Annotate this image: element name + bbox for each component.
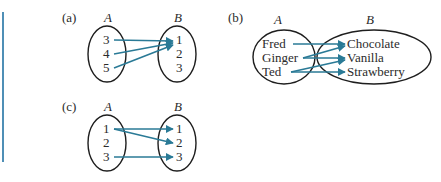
panel-c-codomain-item: 3 — [176, 149, 183, 164]
panel-c-codomain-name: B — [174, 99, 182, 114]
panel-a-domain-item: 3 — [103, 32, 110, 47]
panel-b: (b) A B Fred Ginger Ted Chocolate Vanill… — [228, 10, 431, 84]
panel-c-domain-item: 1 — [103, 121, 110, 136]
panel-a-codomain-item: 2 — [176, 46, 183, 61]
panel-a-domain-item: 4 — [103, 46, 110, 61]
panel-b-arrow-ginger-to-chocolate — [303, 46, 345, 58]
panel-c-domain-name: A — [103, 99, 112, 114]
panel-b-codomain-item: Vanilla — [347, 50, 384, 65]
panel-c-domain-item: 3 — [103, 149, 110, 164]
mapping-diagrams: (a) A B 3 4 5 1 2 3 (b) A B Fred Ginger … — [0, 0, 441, 182]
panel-a-label: (a) — [62, 10, 76, 25]
panel-a-arrow-3-to-1 — [114, 40, 173, 41]
panel-b-domain-item: Ted — [262, 64, 282, 79]
panel-a-codomain-item: 1 — [176, 32, 183, 47]
panel-c-domain-item: 2 — [103, 135, 110, 150]
panel-b-codomain-item: Strawberry — [347, 64, 405, 79]
panel-c-codomain-item: 1 — [176, 121, 183, 136]
panel-a-codomain-item: 3 — [176, 60, 183, 75]
panel-c-arrow-1-to-2 — [114, 129, 173, 143]
panel-b-codomain-item: Chocolate — [347, 36, 400, 51]
panel-a-codomain-name: B — [174, 10, 182, 25]
panel-b-domain-name: A — [273, 12, 282, 27]
panel-a: (a) A B 3 4 5 1 2 3 — [62, 10, 196, 82]
panel-b-domain-item: Ginger — [262, 50, 299, 65]
panel-c-codomain-item: 2 — [176, 135, 183, 150]
panel-c-label: (c) — [62, 99, 76, 114]
panel-b-codomain-name: B — [366, 12, 374, 27]
panel-b-label: (b) — [228, 10, 243, 25]
panel-a-domain-item: 5 — [103, 60, 110, 75]
panel-b-domain-item: Fred — [262, 36, 286, 51]
panel-c: (c) A B 1 2 3 1 2 3 — [62, 99, 196, 171]
panel-a-domain-name: A — [103, 10, 112, 25]
